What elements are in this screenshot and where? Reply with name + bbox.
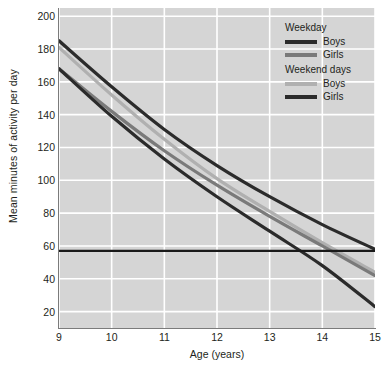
- x-axis-tick-label: 10: [106, 331, 118, 344]
- x-axis-tick-label: 13: [264, 331, 276, 344]
- legend-swatch-icon: [285, 40, 317, 44]
- x-axis-title: Age (years): [59, 348, 375, 360]
- x-axis-line: [58, 328, 376, 329]
- legend-item-label: Girls: [323, 49, 344, 61]
- legend-item: Boys: [285, 77, 383, 90]
- x-axis-tick-label: 15: [369, 331, 381, 344]
- y-axis-line: [58, 8, 59, 329]
- y-axis-tick-label: 40: [43, 273, 55, 284]
- y-axis-tick-labels: 20406080100120140160180200: [22, 0, 58, 368]
- y-axis-tick-label: 60: [43, 240, 55, 251]
- legend-group-title: Weekday: [285, 22, 383, 34]
- x-axis-tick-label: 14: [316, 331, 328, 344]
- legend-swatch-icon: [285, 53, 317, 57]
- y-axis-tick-label: 80: [43, 208, 55, 219]
- legend-group-title: Weekend days: [285, 64, 383, 76]
- chart-legend: WeekdayBoysGirlsWeekend daysBoysGirls: [285, 22, 383, 103]
- x-axis-tick-labels: 9101112131415: [0, 331, 385, 347]
- x-axis-tick-label: 11: [159, 331, 170, 344]
- y-axis-tick-label: 20: [43, 306, 55, 317]
- activity-by-age-chart: Mean minutes of activity per day 2040608…: [0, 0, 385, 368]
- y-axis-tick-label: 100: [37, 175, 55, 186]
- legend-item-label: Girls: [323, 91, 344, 103]
- legend-item: Boys: [285, 35, 383, 48]
- y-axis-tick-label: 160: [37, 76, 55, 87]
- y-axis-tick-label: 200: [37, 11, 55, 22]
- y-axis-tick-label: 180: [37, 44, 55, 55]
- legend-item-label: Boys: [323, 78, 345, 90]
- legend-item: Girls: [285, 90, 383, 103]
- legend-swatch-icon: [285, 82, 317, 86]
- x-axis-tick-label: 9: [56, 331, 62, 344]
- legend-item: Girls: [285, 48, 383, 61]
- x-axis-tick-label: 12: [211, 331, 223, 344]
- legend-item-label: Boys: [323, 36, 345, 48]
- y-axis-title: Mean minutes of activity per day: [2, 0, 24, 330]
- y-axis-tick-label: 140: [37, 109, 55, 120]
- y-axis-tick-label: 120: [37, 142, 55, 153]
- legend-swatch-icon: [285, 95, 317, 99]
